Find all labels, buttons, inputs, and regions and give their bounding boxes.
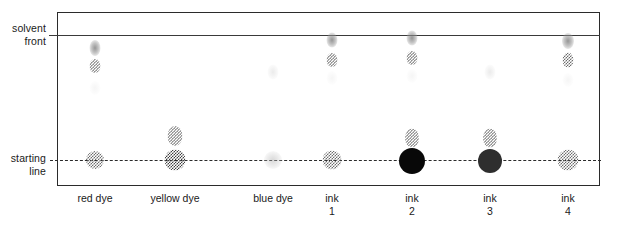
spot-ink-3-1 <box>483 129 497 148</box>
spot-red-dye-3 <box>86 151 104 169</box>
spot-ink-1-3 <box>323 151 342 170</box>
spot-ink-4-3 <box>558 150 579 171</box>
spot-ink-4-1 <box>563 53 574 68</box>
lane-label-ink-3: ink 3 <box>445 192 535 218</box>
starting-line-label: starting line <box>0 152 46 178</box>
lane-label-ink-2: ink 2 <box>367 192 457 218</box>
spot-blue-dye-0 <box>268 65 279 80</box>
spot-ink-1-0 <box>327 33 338 48</box>
spot-ink-2-1 <box>407 51 418 65</box>
spot-ink-3-0 <box>485 65 496 80</box>
spot-ink-1-2 <box>327 71 338 85</box>
solvent-front-tick <box>49 35 59 36</box>
spot-ink-4-0 <box>562 33 574 49</box>
lane-label-ink-1: ink 1 <box>287 192 377 218</box>
spot-yellow-dye-1 <box>165 150 186 171</box>
spot-blue-dye-1 <box>264 151 282 169</box>
spot-red-dye-1 <box>90 59 101 73</box>
spot-ink-3-2 <box>478 149 502 173</box>
chromatography-diagram: solvent front starting line red dyeyello… <box>0 0 617 230</box>
spot-red-dye-2 <box>90 81 101 95</box>
solvent-front-label: solvent front <box>0 22 46 48</box>
spot-ink-1-1 <box>327 53 338 67</box>
spot-ink-2-0 <box>407 31 418 46</box>
spot-ink-4-2 <box>563 73 574 87</box>
spot-ink-2-2 <box>407 69 418 83</box>
spot-yellow-dye-0 <box>168 126 183 146</box>
lane-label-yellow-dye: yellow dye <box>130 192 220 205</box>
spot-red-dye-0 <box>90 40 101 56</box>
spot-ink-2-3 <box>405 129 419 148</box>
lane-label-red-dye: red dye <box>50 192 140 205</box>
spot-ink-2-4 <box>399 148 425 174</box>
lane-label-ink-4: ink 4 <box>523 192 613 218</box>
